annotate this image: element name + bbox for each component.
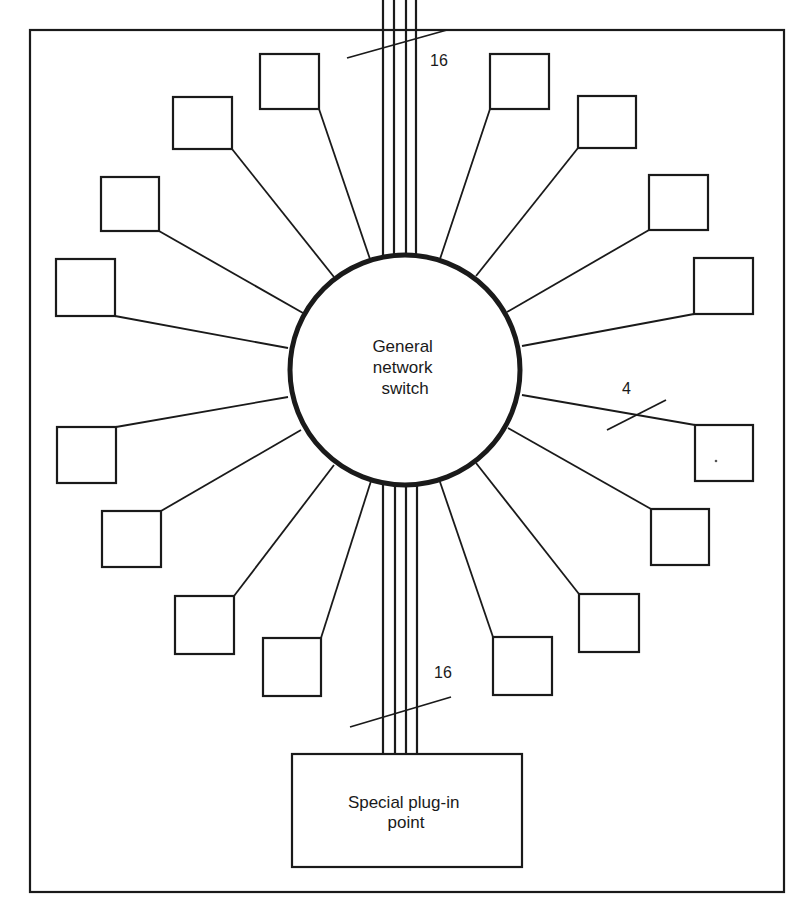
- link-n6: [161, 430, 301, 511]
- terminal-node-n4: [56, 259, 115, 316]
- link-n8: [321, 481, 371, 638]
- link-n11: [507, 230, 649, 312]
- terminal-node-n5: [57, 427, 116, 483]
- plug-in-label-line-2: point: [388, 813, 425, 832]
- terminal-node-n6: [102, 511, 161, 567]
- link-n5: [116, 397, 288, 427]
- network-diagram: General network switch Special plug-in p…: [0, 0, 810, 921]
- link-n16: [439, 479, 493, 637]
- terminal-node-n7: [175, 596, 234, 654]
- link-n13: [522, 395, 695, 425]
- link-n2: [232, 149, 334, 277]
- link-n4: [115, 316, 288, 348]
- link-n1: [319, 109, 371, 262]
- terminal-node-n1: [260, 54, 319, 109]
- link-slash: [607, 400, 666, 430]
- switch-label: General network switch: [372, 337, 437, 398]
- switch-label-line-1: General: [372, 337, 432, 356]
- plug-in-label-line-1: Special plug-in: [348, 793, 460, 812]
- terminal-node-n11: [649, 175, 708, 230]
- terminal-node-n3: [101, 177, 159, 231]
- link-n15: [476, 463, 579, 594]
- terminal-node-n10: [578, 96, 636, 148]
- terminal-node-n16: [493, 637, 552, 695]
- link-count: 4: [622, 380, 631, 397]
- link-n12: [522, 314, 694, 346]
- bottom-bus-slash: [350, 697, 451, 727]
- link-n7: [234, 465, 334, 596]
- switch-label-line-2: network: [373, 358, 433, 377]
- terminal-node-n9: [490, 54, 549, 109]
- terminal-node-n12: [694, 258, 753, 314]
- terminal-node-n14: [651, 509, 709, 565]
- terminal-node-n13: [695, 425, 753, 481]
- switch-label-line-3: switch: [381, 379, 428, 398]
- node-dot: [715, 460, 718, 463]
- link-n10: [476, 148, 578, 276]
- terminal-node-n15: [579, 594, 639, 652]
- link-n9: [439, 109, 490, 262]
- bottom-bus-count: 16: [434, 664, 452, 681]
- link-n14: [508, 428, 651, 509]
- top-bus-count: 16: [430, 52, 448, 69]
- terminal-node-n2: [173, 97, 232, 149]
- link-n3: [159, 231, 303, 313]
- terminal-node-n8: [263, 638, 321, 696]
